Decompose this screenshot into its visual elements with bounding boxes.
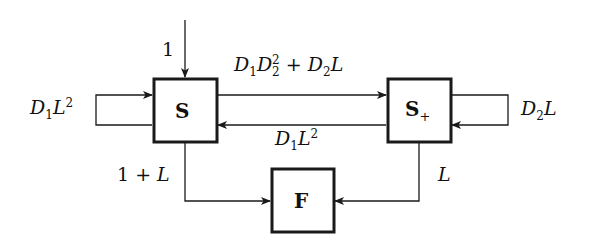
term-l: L xyxy=(157,163,170,185)
plus-operator: + xyxy=(129,163,157,185)
plus-operator: + xyxy=(280,53,308,75)
splus-to-f-label: L xyxy=(438,165,451,184)
node-splus-label: S+ xyxy=(405,99,430,123)
s-to-f-label: 1 + L xyxy=(117,165,170,184)
splus-to-s-label: D1L2 xyxy=(275,128,318,152)
node-splus-subscript: + xyxy=(419,109,430,124)
term-sup: 2 xyxy=(311,127,319,141)
s-to-splus-label: D1D22 + D2L xyxy=(234,54,343,78)
term-l: L xyxy=(53,96,66,118)
term-d: D xyxy=(275,127,290,149)
node-s-text: S xyxy=(175,99,189,123)
term-l: L xyxy=(438,163,451,185)
input-label-text: 1 xyxy=(162,38,174,60)
s-self-loop-label: D1L2 xyxy=(30,97,73,121)
node-f-label: F xyxy=(294,191,308,211)
s-self-loop-edge xyxy=(96,95,152,125)
input-edge-label: 1 xyxy=(162,40,174,59)
term-d: D xyxy=(521,97,536,119)
term-l: L xyxy=(544,97,557,119)
term-d: D xyxy=(30,96,45,118)
node-f-text: F xyxy=(294,189,308,213)
term-sub: 1 xyxy=(249,65,257,79)
term-sub: 2 xyxy=(272,66,280,78)
node-s-label: S xyxy=(175,101,189,121)
term-sub: 1 xyxy=(290,139,298,153)
term-one: 1 xyxy=(117,163,129,185)
term-sub: 2 xyxy=(323,65,331,79)
term-sub: 2 xyxy=(536,109,544,123)
term-l: L xyxy=(331,53,344,75)
splus-to-f-edge xyxy=(335,143,419,201)
term-sup: 2 xyxy=(66,96,74,110)
s-to-f-edge xyxy=(185,143,270,201)
term-d: D xyxy=(257,53,272,75)
term-d: D xyxy=(234,53,249,75)
splus-self-loop-label: D2L xyxy=(521,99,557,122)
splus-self-loop-edge xyxy=(452,95,508,125)
term-sub: 1 xyxy=(45,108,53,122)
term-d: D xyxy=(308,53,323,75)
node-splus-text: S xyxy=(405,97,419,121)
term-l: L xyxy=(298,127,311,149)
